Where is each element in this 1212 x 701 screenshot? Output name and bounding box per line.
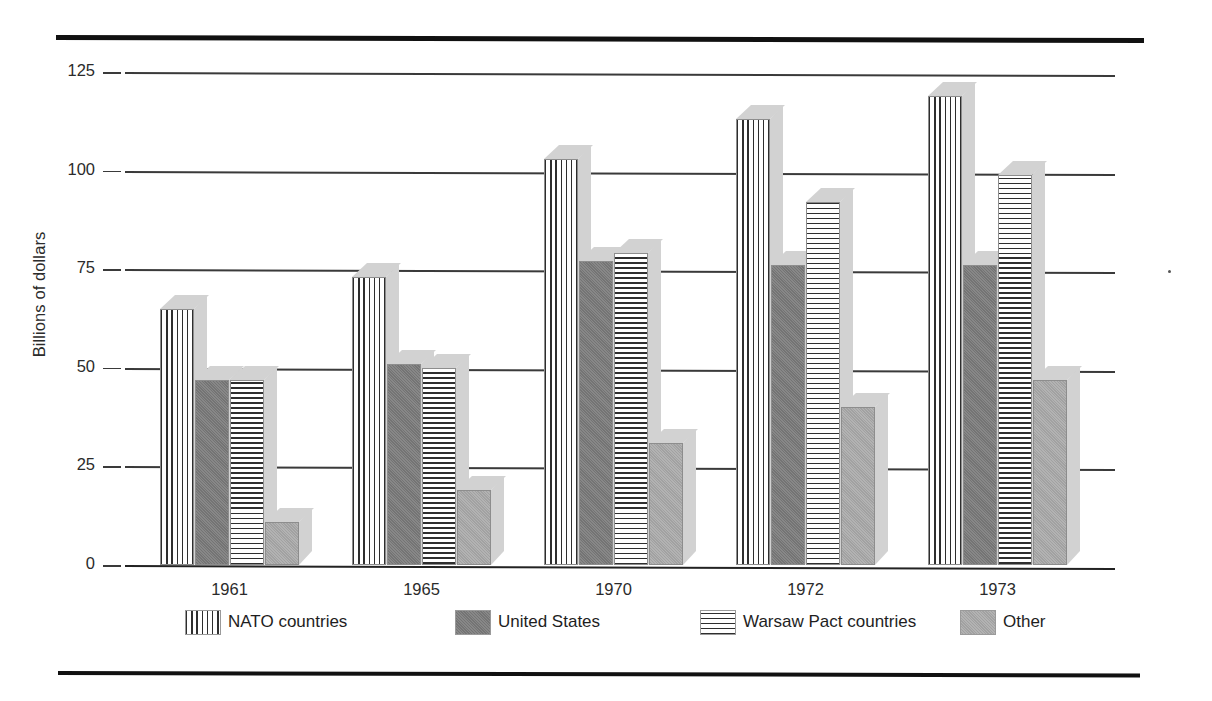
chart-container: Billions of dollars NATO countriesUnited… xyxy=(0,0,1212,701)
y-tick-label-100: 100 xyxy=(35,160,95,179)
bar-front-face xyxy=(649,443,683,565)
x-axis-label-1973: 1973 xyxy=(888,580,1107,599)
legend-item-nato-countries[interactable]: NATO countries xyxy=(185,607,347,637)
bar-front-face xyxy=(771,265,805,565)
gridline-125 xyxy=(125,72,1115,77)
bar-side-face xyxy=(683,429,696,565)
bar-1973-other xyxy=(1033,380,1067,565)
plot-area xyxy=(125,72,1115,565)
legend-item-warsaw-pact-countries[interactable]: Warsaw Pact countries xyxy=(700,607,916,637)
bar-front-face xyxy=(841,407,875,565)
x-axis-label-1970: 1970 xyxy=(504,580,723,599)
bar-1965-nato-countries xyxy=(352,277,386,565)
legend-swatch-icon xyxy=(700,610,736,635)
x-axis-label-1972: 1972 xyxy=(696,580,915,599)
bar-front-face xyxy=(160,309,194,565)
y-tick-dash-50 xyxy=(103,368,121,370)
bar-front-face xyxy=(352,277,386,565)
bar-front-face xyxy=(422,368,456,565)
bar-1972-nato-countries xyxy=(736,119,770,565)
y-tick-label-125: 125 xyxy=(35,61,95,80)
legend-label: Warsaw Pact countries xyxy=(743,612,916,632)
bar-front-face xyxy=(387,364,421,565)
bar-front-face xyxy=(579,261,613,565)
legend-swatch-icon xyxy=(455,610,491,635)
bar-1970-nato-countries xyxy=(544,159,578,565)
legend-swatch-icon xyxy=(960,610,996,635)
gridline-0 xyxy=(125,565,1115,570)
bar-front-face xyxy=(806,202,840,565)
bar-1961-nato-countries xyxy=(160,309,194,565)
bottom-rule xyxy=(58,671,1140,677)
bar-front-face xyxy=(963,265,997,565)
y-tick-dash-100 xyxy=(103,171,121,173)
y-tick-dash-0 xyxy=(103,565,121,567)
bar-front-face xyxy=(457,490,491,565)
bar-front-face xyxy=(928,96,962,565)
bar-1965-united-states xyxy=(387,364,421,565)
chart-legend: NATO countriesUnited StatesWarsaw Pact c… xyxy=(0,607,1212,643)
bar-front-face xyxy=(998,175,1032,565)
bar-1970-warsaw-pact-countries xyxy=(614,253,648,565)
bar-side-face xyxy=(875,393,888,565)
bar-1970-united-states xyxy=(579,261,613,565)
bar-front-face xyxy=(265,522,299,565)
bar-1972-other xyxy=(841,407,875,565)
bar-front-face xyxy=(1033,380,1067,565)
bar-1973-nato-countries xyxy=(928,96,962,565)
x-axis-label-1961: 1961 xyxy=(120,580,339,599)
bar-front-face xyxy=(195,380,229,565)
legend-label: United States xyxy=(498,612,600,632)
y-tick-dash-25 xyxy=(103,466,121,468)
top-rule xyxy=(56,35,1144,43)
legend-swatch-icon xyxy=(185,610,221,635)
bar-1972-united-states xyxy=(771,265,805,565)
bar-1961-other xyxy=(265,522,299,565)
bar-1973-warsaw-pact-countries xyxy=(998,175,1032,565)
bar-front-face xyxy=(614,253,648,565)
bar-1970-other xyxy=(649,443,683,565)
legend-label: Other xyxy=(1003,612,1046,632)
y-tick-label-0: 0 xyxy=(35,554,95,573)
bar-1965-other xyxy=(457,490,491,565)
y-tick-label-50: 50 xyxy=(35,357,95,376)
scan-speck xyxy=(1168,270,1171,273)
bar-1965-warsaw-pact-countries xyxy=(422,368,456,565)
bar-1973-united-states xyxy=(963,265,997,565)
bar-front-face xyxy=(544,159,578,565)
bar-1961-united-states xyxy=(195,380,229,565)
legend-item-other[interactable]: Other xyxy=(960,607,1046,637)
x-axis-label-1965: 1965 xyxy=(312,580,531,599)
bar-side-face xyxy=(1067,366,1080,565)
bar-1972-warsaw-pact-countries xyxy=(806,202,840,565)
y-tick-dash-75 xyxy=(103,269,121,271)
legend-label: NATO countries xyxy=(228,612,347,632)
bar-side-face xyxy=(491,476,504,565)
y-tick-dash-125 xyxy=(103,72,121,74)
y-tick-label-25: 25 xyxy=(35,455,95,474)
legend-item-united-states[interactable]: United States xyxy=(455,607,600,637)
bar-1961-warsaw-pact-countries xyxy=(230,380,264,565)
y-tick-label-75: 75 xyxy=(35,258,95,277)
bar-front-face xyxy=(736,119,770,565)
bar-front-face xyxy=(230,380,264,565)
